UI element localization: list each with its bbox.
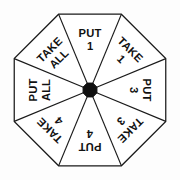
sector-put-1-line-0: PUT	[79, 27, 102, 39]
sector-put-4-line-1: 4	[86, 128, 93, 140]
sector-put-3-line-0: PUT	[141, 79, 153, 102]
sector-put-all-line-1: ALL	[40, 79, 52, 101]
center-hub-pivot[interactable]	[83, 83, 97, 97]
sector-put-all-line-0: PUT	[27, 79, 39, 102]
sector-put-all[interactable]: PUTALL	[27, 79, 52, 102]
sector-put-3-line-1: 3	[128, 87, 140, 93]
sector-put-1-line-1: 1	[87, 40, 93, 52]
spinner-wheel-container: PUT1TAKE1PUT3TAKE3PUT4TAKE4PUTALLTAKEALL	[0, 0, 180, 180]
sector-put-4-line-0: PUT	[79, 141, 102, 153]
spinner-wheel[interactable]: PUT1TAKE1PUT3TAKE3PUT4TAKE4PUTALLTAKEALL	[0, 0, 180, 180]
